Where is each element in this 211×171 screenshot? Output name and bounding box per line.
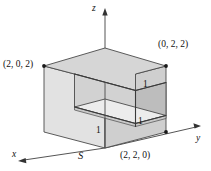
solid-group <box>42 48 168 148</box>
x-axis-line <box>24 148 105 160</box>
x-axis-label: x <box>12 150 16 160</box>
vertex-label-0-2-2: (0, 2, 2) <box>158 40 188 50</box>
vertex-dot-2-2-0 <box>164 130 168 134</box>
vertex-label-2-0-2: (2, 0, 2) <box>3 60 33 70</box>
solid-geometry-figure: z y x (2, 0, 2) (0, 2, 2) (2, 2, 0) 1 1 … <box>0 0 211 171</box>
vertex-dot-2-0-2 <box>42 64 46 68</box>
dim-label-notch-front-bottom: 1 <box>96 126 101 136</box>
surface-label-S: S <box>78 151 83 162</box>
z-axis-label: z <box>92 4 96 14</box>
figure-canvas <box>0 0 211 171</box>
dim-label-notch-right-vertical: 1 <box>143 80 148 90</box>
vertex-label-2-2-0: (2, 2, 0) <box>120 151 150 161</box>
x-axis-arrowhead <box>18 158 26 163</box>
z-axis-arrowhead <box>102 8 107 16</box>
dim-label-notch-right-bottom: 1 <box>138 117 143 127</box>
y-axis-arrowhead <box>193 123 201 128</box>
vertex-dot-0-2-2 <box>164 64 168 68</box>
y-axis-label: y <box>196 134 200 144</box>
